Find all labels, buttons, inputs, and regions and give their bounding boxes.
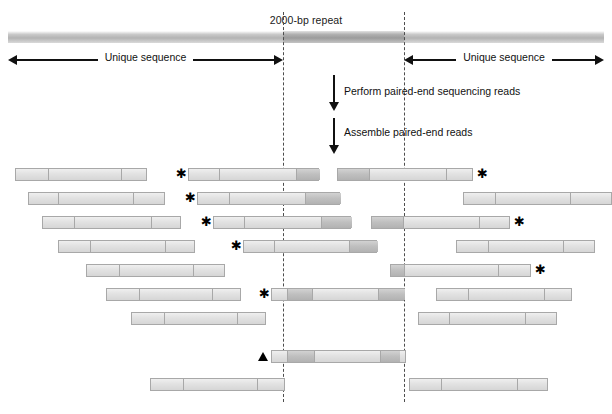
step-2-label: Assemble paired-end reads bbox=[344, 126, 472, 138]
read-bar bbox=[213, 216, 351, 229]
read-segment-divider bbox=[164, 313, 165, 324]
read-repeat-segment bbox=[391, 265, 404, 276]
star-marker: ✱ bbox=[535, 263, 546, 276]
read-segment-divider bbox=[488, 241, 489, 252]
read-segment-divider bbox=[495, 193, 496, 204]
read-segment-divider bbox=[139, 289, 140, 300]
read-segment-divider bbox=[544, 289, 545, 300]
read-segment-divider bbox=[58, 193, 59, 204]
star-marker: ✱ bbox=[231, 239, 242, 252]
star-marker: ✱ bbox=[185, 191, 196, 204]
read-repeat-segment bbox=[287, 289, 312, 300]
read-segment-divider bbox=[274, 241, 275, 252]
read-segment-divider bbox=[287, 289, 288, 300]
read-segment-divider bbox=[479, 217, 480, 228]
star-marker: ✱ bbox=[201, 215, 212, 228]
read-segment-divider bbox=[525, 313, 526, 324]
read-bar bbox=[42, 216, 181, 229]
read-segment-divider bbox=[312, 289, 313, 300]
read-segment-divider bbox=[380, 351, 381, 362]
read-segment-divider bbox=[449, 313, 450, 324]
read-bar bbox=[106, 288, 241, 301]
read-repeat-segment bbox=[296, 169, 320, 180]
read-segment-divider bbox=[498, 265, 499, 276]
paired-end-repeat-diagram: 2000-bp repeat Unique sequence Unique se… bbox=[0, 0, 612, 414]
step-2-arrow-icon bbox=[333, 118, 335, 146]
read-bar bbox=[463, 192, 612, 205]
star-marker: ✱ bbox=[259, 287, 270, 300]
read-bar bbox=[271, 350, 406, 363]
read-segment-divider bbox=[321, 217, 322, 228]
read-segment-divider bbox=[563, 241, 564, 252]
read-segment-divider bbox=[219, 169, 220, 180]
read-bar bbox=[15, 168, 147, 181]
read-bar bbox=[197, 192, 340, 205]
read-segment-divider bbox=[212, 289, 213, 300]
left-unique-sequence-label: Unique sequence bbox=[98, 51, 194, 63]
read-segment-divider bbox=[441, 379, 442, 390]
genome-repeat-region bbox=[283, 31, 404, 43]
read-segment-divider bbox=[570, 193, 571, 204]
read-bar bbox=[390, 264, 531, 277]
star-marker: ✱ bbox=[514, 215, 525, 228]
read-segment-divider bbox=[133, 193, 134, 204]
read-segment-divider bbox=[517, 379, 518, 390]
read-repeat-segment bbox=[372, 217, 403, 228]
read-segment-divider bbox=[90, 241, 91, 252]
read-repeat-segment bbox=[380, 351, 400, 362]
right-unique-sequence-arrow: Unique sequence bbox=[404, 52, 604, 68]
read-bar bbox=[86, 264, 225, 277]
read-segment-divider bbox=[48, 169, 49, 180]
repeat-right-boundary-line bbox=[404, 12, 405, 402]
read-segment-divider bbox=[165, 241, 166, 252]
read-segment-divider bbox=[229, 193, 230, 204]
read-segment-divider bbox=[237, 313, 238, 324]
read-segment-divider bbox=[403, 217, 404, 228]
read-segment-divider bbox=[369, 169, 370, 180]
read-repeat-segment bbox=[287, 351, 314, 362]
read-segment-divider bbox=[151, 217, 152, 228]
read-segment-divider bbox=[296, 169, 297, 180]
read-bar bbox=[243, 240, 377, 253]
read-segment-divider bbox=[119, 265, 120, 276]
read-repeat-segment bbox=[321, 217, 352, 228]
read-segment-divider bbox=[183, 379, 184, 390]
read-repeat-segment bbox=[349, 241, 378, 252]
read-segment-divider bbox=[121, 169, 122, 180]
read-repeat-segment bbox=[378, 289, 405, 300]
read-bar bbox=[58, 240, 195, 253]
read-bar bbox=[150, 378, 285, 391]
read-segment-divider bbox=[244, 217, 245, 228]
read-segment-divider bbox=[404, 265, 405, 276]
read-segment-divider bbox=[287, 351, 288, 362]
read-bar bbox=[418, 312, 557, 325]
read-bar bbox=[436, 288, 572, 301]
read-segment-divider bbox=[349, 241, 350, 252]
left-unique-sequence-arrow: Unique sequence bbox=[8, 52, 283, 68]
read-segment-divider bbox=[378, 289, 379, 300]
read-segment-divider bbox=[257, 379, 258, 390]
read-bar bbox=[456, 240, 595, 253]
read-segment-divider bbox=[468, 289, 469, 300]
read-repeat-segment bbox=[338, 169, 369, 180]
read-bar bbox=[271, 288, 404, 301]
read-bar bbox=[28, 192, 165, 205]
read-bar bbox=[409, 378, 548, 391]
read-repeat-segment bbox=[305, 193, 341, 204]
read-bar bbox=[337, 168, 473, 181]
step-1-label: Perform paired-end sequencing reads bbox=[344, 85, 520, 97]
triangle-marker bbox=[258, 352, 268, 361]
read-segment-divider bbox=[314, 351, 315, 362]
step-1-arrow-icon bbox=[333, 75, 335, 103]
read-bar bbox=[131, 312, 266, 325]
read-segment-divider bbox=[446, 169, 447, 180]
read-bar bbox=[188, 168, 319, 181]
left-unique-sequence-label-wrap: Unique sequence bbox=[8, 51, 283, 63]
right-unique-sequence-label-wrap: Unique sequence bbox=[404, 51, 604, 63]
read-segment-divider bbox=[193, 265, 194, 276]
repeat-left-boundary-line bbox=[283, 12, 284, 402]
star-marker: ✱ bbox=[176, 167, 187, 180]
read-bar bbox=[371, 216, 510, 229]
repeat-label: 2000-bp repeat bbox=[0, 14, 612, 26]
right-unique-sequence-label: Unique sequence bbox=[456, 51, 552, 63]
